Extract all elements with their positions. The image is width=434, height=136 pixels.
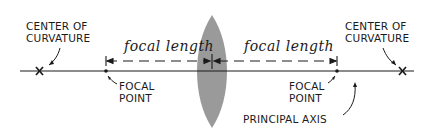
focal-point-right-label: FOCAL POINT [289,80,325,104]
principal-axis-leader-arrow [343,85,355,115]
focal-point-left-dot [104,69,108,73]
focal-length-left-dimension [106,56,210,66]
focal-length-right-dimension [214,56,337,66]
focal-length-left-label: focal length [124,38,214,54]
center-of-curvature-right-label: CENTER OF CURVATURE [345,20,409,44]
focal-point-right-dot [335,69,339,73]
principal-axis-label: PRINCIPAL AXIS [243,113,327,125]
focal-length-right-label: focal length [244,38,334,54]
center-of-curvature-left-label: CENTER OF CURVATURE [26,20,90,44]
focal-point-left-label: FOCAL POINT [119,80,155,104]
